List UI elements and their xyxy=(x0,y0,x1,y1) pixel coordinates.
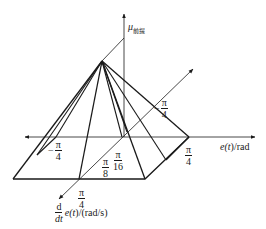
tick-den: 4 xyxy=(162,109,167,120)
pyramid-diagram xyxy=(0,0,266,229)
tick-den: 16 xyxy=(113,161,123,172)
tick-pi-16: π16 xyxy=(113,145,123,172)
tick-den: 4 xyxy=(79,199,84,210)
vertical-axis-label: μ前提 xyxy=(128,22,145,34)
tick-depth-neg-pi-4: − π4 xyxy=(154,98,168,120)
tick-left-neg-pi-4: − π4 xyxy=(48,140,62,162)
tick-depth-pi-4: π4 xyxy=(78,183,85,210)
tick-den: 4 xyxy=(56,151,61,162)
tick-right-pi-4: π4 xyxy=(185,140,192,167)
minus-sign: − xyxy=(48,146,54,156)
tick-num: π xyxy=(161,98,168,109)
dt-denominator: dt xyxy=(55,213,63,224)
e-prefix: e( xyxy=(220,141,228,152)
edge-center-1 xyxy=(102,61,122,137)
tick-num: π xyxy=(185,145,192,156)
tick-num: π xyxy=(114,150,121,161)
depth-axis-back xyxy=(102,38,124,61)
d-numerator: d xyxy=(55,202,62,213)
e-prefix: e( xyxy=(65,208,73,218)
tick-den: 8 xyxy=(103,168,108,179)
minus-sign: − xyxy=(154,104,160,114)
mu-subscript: 前提 xyxy=(133,28,145,34)
horizontal-axis-label: e(t)/rad xyxy=(220,142,249,152)
tick-num: π xyxy=(55,140,62,151)
unit-rad: )/rad xyxy=(231,141,250,152)
derivative-operator: d dt xyxy=(55,202,63,224)
tick-num: π xyxy=(102,157,109,168)
tick-pi-8: π8 xyxy=(102,152,109,179)
tick-num: π xyxy=(78,188,85,199)
edge-front xyxy=(79,61,102,179)
tick-den: 4 xyxy=(186,156,191,167)
